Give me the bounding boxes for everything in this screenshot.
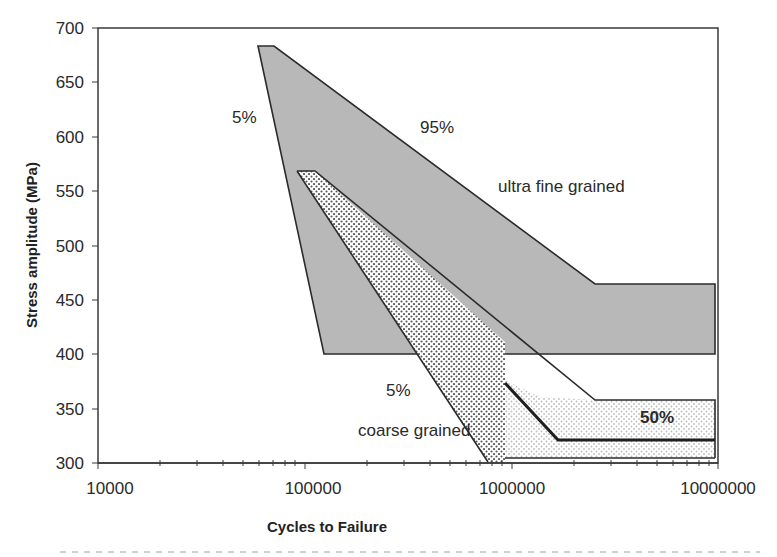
y-tick-label: 300 <box>56 454 84 473</box>
x-tick-label: 10000 <box>86 479 133 498</box>
x-tick-label: 100000 <box>285 479 342 498</box>
x-tick-labels: 10000 100000 1000000 10000000 <box>86 479 755 498</box>
y-tick-label: 450 <box>56 291 84 310</box>
y-tick-label: 700 <box>56 19 84 38</box>
y-tick-label: 400 <box>56 345 84 364</box>
cg-5pct-label: 5% <box>386 381 411 400</box>
y-tick-labels: 700 650 600 550 500 450 400 350 300 <box>56 19 84 473</box>
clipped-caption <box>0 548 777 557</box>
ufg-name-label: ultra fine grained <box>498 177 625 196</box>
x-axis-title: Cycles to Failure <box>267 518 387 535</box>
y-axis <box>92 28 98 463</box>
cg-50pct-label: 50% <box>640 408 674 427</box>
y-tick-label: 550 <box>56 182 84 201</box>
y-axis-title: Stress amplitude (MPa) <box>23 162 40 328</box>
y-tick-label: 650 <box>56 73 84 92</box>
y-tick-label: 600 <box>56 128 84 147</box>
y-tick-label: 500 <box>56 237 84 256</box>
x-tick-label: 1000000 <box>479 479 545 498</box>
fatigue-chart: 700 650 600 550 500 450 400 350 300 1000… <box>0 0 777 557</box>
cg-name-label: coarse grained <box>358 421 470 440</box>
ufg-95pct-label: 95% <box>420 118 454 137</box>
ufg-5pct-label: 5% <box>232 108 257 127</box>
y-tick-label: 350 <box>56 400 84 419</box>
x-tick-label: 10000000 <box>680 479 756 498</box>
